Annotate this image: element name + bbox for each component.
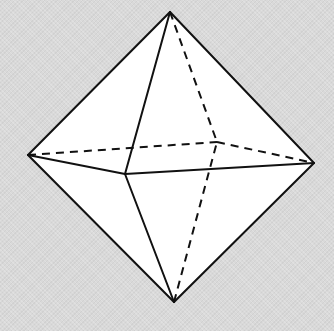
octahedron-silhouette [28,12,314,302]
octahedron-diagram [0,0,334,331]
